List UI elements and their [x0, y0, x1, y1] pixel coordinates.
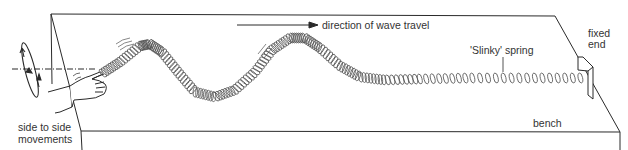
bench-outline	[51, 14, 620, 150]
movement-label-line1: side to side	[18, 121, 71, 133]
direction-label: direction of wave travel	[322, 19, 429, 31]
spring-label: 'Slinky' spring	[470, 44, 534, 56]
direction-arrow-icon	[237, 22, 318, 28]
fixed-end-block	[578, 57, 593, 99]
fixed-end-label-line2: end	[588, 38, 606, 50]
bench-label: bench	[533, 117, 562, 129]
movement-label-line2: movements	[18, 133, 72, 145]
hand-icon	[48, 72, 106, 113]
